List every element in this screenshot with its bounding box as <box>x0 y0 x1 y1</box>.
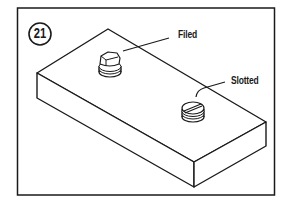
figure-number: 21 <box>28 25 52 41</box>
filed-screw-icon <box>99 52 121 77</box>
slotted-screw-icon <box>182 102 204 122</box>
filed-label: Filed <box>178 29 197 40</box>
slotted-label: Slotted <box>231 75 259 86</box>
